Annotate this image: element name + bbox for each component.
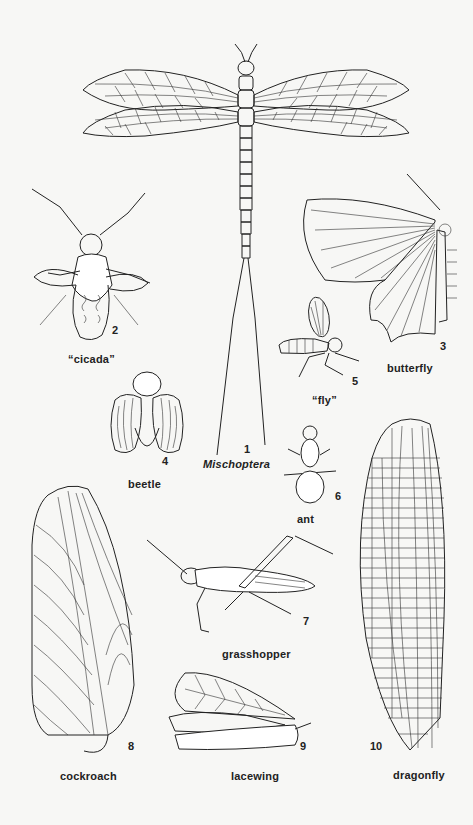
figure-beetle bbox=[105, 368, 190, 458]
figure-caption-ant: ant bbox=[297, 513, 314, 525]
figure-cicada bbox=[20, 185, 160, 340]
beetle-drawing bbox=[105, 368, 190, 458]
fly-drawing bbox=[265, 295, 375, 385]
figure-number: 3 bbox=[440, 340, 446, 352]
figure-number: 6 bbox=[335, 490, 341, 502]
figure-number: 7 bbox=[303, 615, 309, 627]
figure-lacewing bbox=[155, 665, 315, 755]
figure-caption-fly: “fly” bbox=[312, 394, 337, 406]
figure-number: 5 bbox=[352, 375, 358, 387]
figure-number: 10 bbox=[370, 740, 382, 752]
figure-number: 8 bbox=[128, 740, 134, 752]
lacewing-drawing bbox=[155, 665, 315, 755]
figure-caption-dragonfly: dragonfly bbox=[393, 769, 445, 781]
figure-dragonfly bbox=[352, 418, 452, 753]
figure-caption-cockroach: cockroach bbox=[60, 770, 117, 782]
figure-number: 1 bbox=[244, 443, 250, 455]
cicada-drawing bbox=[20, 185, 160, 340]
figure-fly bbox=[265, 295, 375, 385]
insect-illustration-plate: 1 Mischoptera 2 “cicada” bbox=[0, 0, 473, 825]
figure-cockroach bbox=[28, 485, 138, 755]
dragonfly-wing-drawing bbox=[352, 418, 452, 753]
figure-caption-mischoptera: Mischoptera bbox=[203, 458, 270, 470]
figure-number: 4 bbox=[162, 455, 168, 467]
figure-caption-lacewing: lacewing bbox=[231, 770, 279, 782]
figure-caption-grasshopper: grasshopper bbox=[222, 648, 291, 660]
figure-number: 2 bbox=[112, 324, 118, 336]
cockroach-wing-drawing bbox=[28, 485, 138, 755]
figure-caption-cicada: “cicada” bbox=[68, 353, 115, 365]
figure-number: 9 bbox=[300, 740, 306, 752]
figure-caption-butterfly: butterfly bbox=[387, 362, 433, 374]
